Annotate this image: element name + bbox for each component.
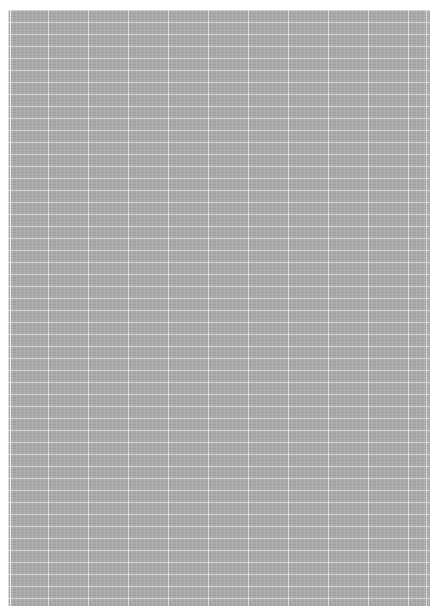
page-canvas xyxy=(0,0,439,616)
right-margin-line xyxy=(426,10,427,606)
graph-paper-sheet xyxy=(8,10,430,606)
left-margin-line xyxy=(10,10,11,606)
